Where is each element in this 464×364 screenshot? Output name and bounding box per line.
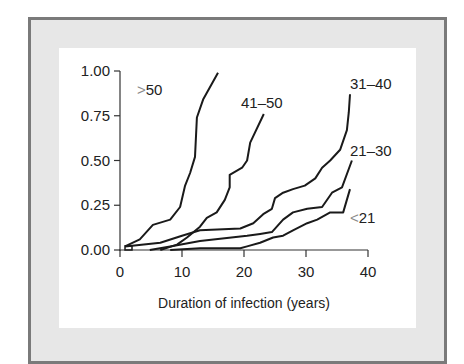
- series-label-text: 21: [359, 209, 376, 226]
- x-tick-label: 30: [298, 263, 315, 280]
- series-label-text: 41–50: [241, 94, 283, 111]
- series-label-symbol: <: [350, 209, 359, 226]
- series-label-text: 50: [146, 81, 163, 98]
- x-tick-label: 20: [236, 263, 253, 280]
- series-label-symbol: >: [137, 81, 146, 98]
- series-label: 41–50: [241, 94, 283, 111]
- series-label: >50: [137, 81, 162, 98]
- series-lines: [125, 73, 352, 250]
- survival-curve-chart: 0.000.250.500.751.00010203040 >5041–5031…: [0, 0, 464, 364]
- x-tick-label: 40: [360, 263, 377, 280]
- y-tick-label: 0.50: [81, 152, 110, 169]
- series-label-text: 21–30: [350, 142, 392, 159]
- y-tick-label: 0.75: [81, 107, 110, 124]
- y-tick-label: 0.00: [81, 241, 110, 258]
- series-label: <21: [350, 209, 375, 226]
- x-axis-title: Duration of infection (years): [158, 295, 330, 311]
- series-labels: >5041–5031–4021–30<21: [137, 75, 392, 226]
- series-label-text: 31–40: [350, 75, 392, 92]
- series-label: 21–30: [350, 142, 392, 159]
- x-tick-label: 10: [174, 263, 191, 280]
- y-tick-label: 1.00: [81, 62, 110, 79]
- series-label: 31–40: [350, 75, 392, 92]
- origin-marker: [125, 246, 132, 250]
- y-tick-label: 0.25: [81, 196, 110, 213]
- x-tick-label: 0: [116, 263, 124, 280]
